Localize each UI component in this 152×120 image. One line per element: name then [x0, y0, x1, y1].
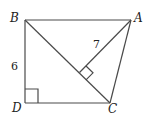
segment-ca	[110, 20, 131, 103]
length-label-altitude: 7	[93, 38, 100, 51]
vertex-label-d: D	[11, 101, 22, 115]
altitude-from-a	[80, 20, 132, 73]
right-angle-marker-foot	[86, 66, 93, 80]
geometry-diagram: B A D C 6 7	[0, 0, 152, 120]
vertex-label-b: B	[9, 11, 19, 25]
right-angle-marker-d	[25, 89, 38, 103]
length-label-bd: 6	[11, 60, 18, 73]
vertex-label-a: A	[133, 11, 143, 25]
vertex-label-c: C	[108, 102, 117, 116]
